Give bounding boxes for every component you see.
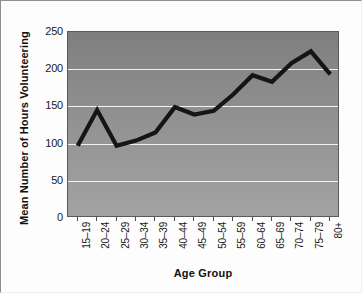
y-axis-label: Mean Number of Hours Volunteering <box>18 35 30 225</box>
series-line-mean-hours <box>68 32 339 217</box>
x-tick-mark-10 <box>271 217 272 221</box>
x-tick-label-11: 70–74 <box>294 222 305 249</box>
x-tick-mark-12 <box>310 217 311 221</box>
y-tick-0: 0 <box>57 211 63 223</box>
x-tick-mark-5 <box>174 217 175 221</box>
x-tick-labels: 15–1920–2425–2930–3435–3940–4445–4950–54… <box>67 222 339 266</box>
x-tick-mark-8 <box>232 217 233 221</box>
x-tick-mark-2 <box>116 217 117 221</box>
x-tick-label-8: 55–59 <box>236 222 247 249</box>
x-tick-label-10: 65–69 <box>275 222 286 249</box>
x-tick-label-2: 25–29 <box>120 222 131 249</box>
x-tick-mark-4 <box>154 217 155 221</box>
y-axis: 050100150200250 Mean Number of Hours Vol… <box>1 1 67 293</box>
x-tick-mark-1 <box>96 217 97 221</box>
x-tick-label-4: 35–39 <box>158 222 169 249</box>
x-tick-label-5: 40–44 <box>178 222 189 249</box>
x-tick-label-9: 60–64 <box>256 222 267 249</box>
x-tick-mark-13 <box>329 217 330 221</box>
x-tick-label-7: 50–54 <box>217 222 228 249</box>
x-tick-mark-9 <box>252 217 253 221</box>
x-tick-mark-6 <box>193 217 194 221</box>
y-tick-100: 100 <box>45 137 63 149</box>
x-tick-label-13: 80+ <box>333 222 344 238</box>
x-tick-label-12: 75–79 <box>314 222 325 249</box>
x-tick-mark-0 <box>77 217 78 221</box>
y-tick-200: 200 <box>45 62 63 74</box>
x-tick-label-6: 45–49 <box>197 222 208 249</box>
x-tick-label-0: 15–19 <box>81 222 92 249</box>
plot-area <box>67 31 339 217</box>
x-tick-mark-11 <box>290 217 291 221</box>
x-axis-label: Age Group <box>67 267 339 279</box>
chart-page: 050100150200250 Mean Number of Hours Vol… <box>0 0 362 293</box>
x-tick-mark-3 <box>135 217 136 221</box>
x-tick-label-3: 30–34 <box>139 222 150 249</box>
y-tick-50: 50 <box>51 174 63 186</box>
line-chart-figure: 050100150200250 Mean Number of Hours Vol… <box>1 1 362 293</box>
x-tick-mark-7 <box>213 217 214 221</box>
x-tick-label-1: 20–24 <box>100 222 111 249</box>
y-tick-250: 250 <box>45 25 63 37</box>
y-tick-150: 150 <box>45 99 63 111</box>
